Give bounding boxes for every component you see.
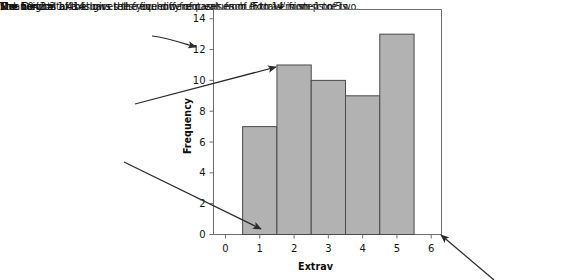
bar-2 bbox=[277, 65, 311, 235]
x-axis-title: Extrav bbox=[298, 261, 334, 272]
x-tick-label-2: 2 bbox=[291, 243, 297, 254]
y-tick-label-12: 12 bbox=[193, 44, 206, 55]
x-tick-label-3: 3 bbox=[325, 243, 331, 254]
x-tick-label-0: 0 bbox=[222, 243, 228, 254]
histogram-figure: The vertical axis shows the frequency of… bbox=[0, 0, 562, 280]
y-tick-label-8: 8 bbox=[199, 106, 205, 117]
arrow-to-horizontal-axis bbox=[124, 162, 261, 229]
x-tick-label-5: 5 bbox=[394, 243, 400, 254]
bar-1 bbox=[243, 127, 277, 235]
x-tick-label-6: 6 bbox=[428, 243, 434, 254]
x-tick-label-4: 4 bbox=[359, 243, 365, 254]
bar-4 bbox=[346, 96, 380, 235]
y-tick-label-4: 4 bbox=[199, 167, 205, 178]
bar-5 bbox=[380, 34, 414, 234]
bar-3 bbox=[311, 80, 345, 234]
histogram-chart: 02468101214 0123456 ExtravFrequency bbox=[0, 0, 562, 280]
y-tick-label-14: 14 bbox=[193, 13, 206, 24]
y-tick-label-6: 6 bbox=[199, 137, 205, 148]
x-tick-label-1: 1 bbox=[257, 243, 263, 254]
arrow-to-x-max bbox=[441, 235, 494, 280]
y-axis-title: Frequency bbox=[182, 97, 193, 154]
x-axis: 0123456 bbox=[222, 235, 434, 254]
arrow-to-bar-heights bbox=[135, 67, 276, 104]
y-tick-label-0: 0 bbox=[199, 229, 205, 240]
arrow-to-vertical-axis bbox=[152, 36, 196, 47]
y-tick-label-10: 10 bbox=[193, 75, 206, 86]
bars-group bbox=[243, 34, 414, 234]
